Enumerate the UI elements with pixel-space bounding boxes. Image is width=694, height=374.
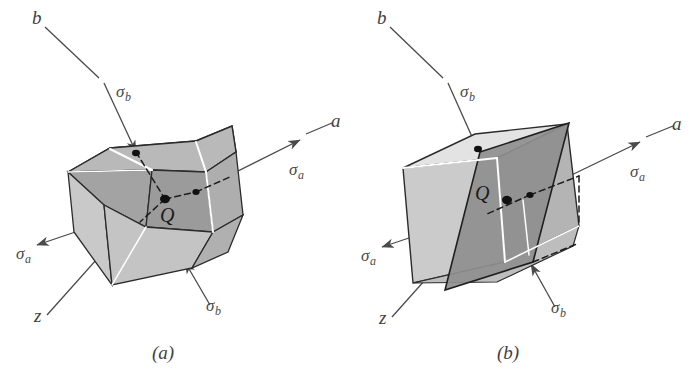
sigma-subscript: b <box>560 306 566 320</box>
sigma-subscript: a <box>298 168 304 182</box>
marker-sigma-b-top <box>474 146 482 152</box>
panel-b: b a z σb σa σa σb Q (b) <box>347 0 694 374</box>
sigma-glyph: σ <box>551 298 559 317</box>
stress-label-sigma-a-right: σa <box>289 161 303 178</box>
sigma-glyph: σ <box>289 160 297 179</box>
stress-element-figure: b a z σb σa σa σb Q (a) <box>0 0 694 374</box>
point-Q-marker <box>160 195 170 203</box>
face-center-dark <box>146 170 213 232</box>
panel-a: b a z σb σa σa σb Q (a) <box>0 0 347 374</box>
stress-label-sigma-b-bottom: σb <box>551 299 565 316</box>
sigma-glyph: σ <box>16 244 24 263</box>
sigma-glyph: σ <box>630 162 638 181</box>
sigma-glyph: σ <box>116 82 124 101</box>
axis-label-a: a <box>331 111 341 130</box>
panel-caption-b: (b) <box>497 342 519 364</box>
sigma-glyph: σ <box>206 296 214 315</box>
point-label-Q: Q <box>160 205 174 225</box>
axis-label-b: b <box>32 8 42 27</box>
sigma-subscript: a <box>639 170 645 184</box>
axis-label-z: z <box>34 306 41 325</box>
sigma-glyph: σ <box>460 82 468 101</box>
axis-label-b: b <box>377 8 387 27</box>
marker-sigma-a-right <box>192 189 199 195</box>
sigma-subscript: b <box>215 304 221 318</box>
stress-label-sigma-a-left: σa <box>361 247 375 264</box>
cube-body-b <box>403 123 579 290</box>
point-label-Q: Q <box>475 183 489 203</box>
sigma-subscript: b <box>125 90 131 104</box>
axis-label-z: z <box>379 308 386 327</box>
point-Q-marker <box>502 196 512 204</box>
panel-a-artwork <box>0 0 347 374</box>
sigma-subscript: b <box>469 90 475 104</box>
face-upper-plate <box>68 126 236 172</box>
panel-caption-a: (a) <box>152 342 174 364</box>
stress-label-sigma-b-bottom: σb <box>206 297 220 314</box>
cube-body-a <box>68 126 243 285</box>
axis-label-a: a <box>672 114 682 133</box>
sigma-subscript: a <box>370 254 376 268</box>
stress-label-sigma-a-right: σa <box>630 163 644 180</box>
stress-label-sigma-b-top: σb <box>116 83 130 100</box>
stress-label-sigma-b-top: σb <box>460 83 474 100</box>
marker-sigma-a-right <box>526 192 533 198</box>
sigma-subscript: a <box>25 252 31 266</box>
panel-b-artwork <box>347 0 694 374</box>
sigma-glyph: σ <box>361 246 369 265</box>
stress-label-sigma-a-left: σa <box>16 245 30 262</box>
marker-sigma-b-top <box>132 150 140 156</box>
